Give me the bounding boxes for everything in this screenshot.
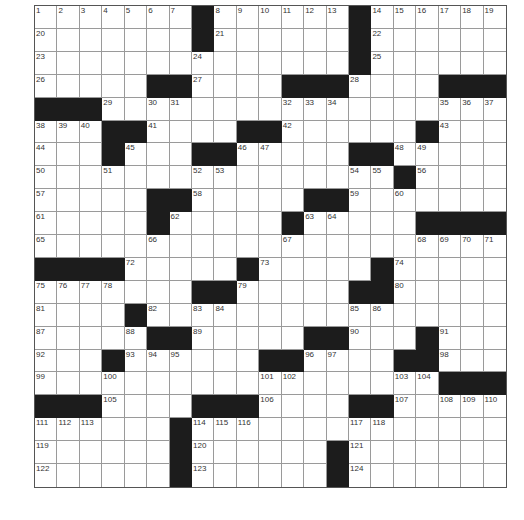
grid-cell[interactable] (80, 166, 102, 189)
grid-cell[interactable] (259, 464, 281, 487)
grid-cell[interactable] (57, 235, 79, 258)
grid-cell[interactable]: 85 (349, 304, 371, 327)
grid-cell[interactable] (237, 166, 259, 189)
grid-cell[interactable] (259, 235, 281, 258)
grid-cell[interactable]: 11 (282, 6, 304, 29)
grid-cell[interactable]: 21 (214, 29, 236, 52)
grid-cell[interactable] (327, 418, 349, 441)
grid-cell[interactable]: 104 (416, 372, 438, 395)
grid-cell[interactable] (282, 29, 304, 52)
grid-cell[interactable]: 52 (192, 166, 214, 189)
grid-cell[interactable]: 32 (282, 98, 304, 121)
grid-cell[interactable] (349, 372, 371, 395)
grid-cell[interactable] (57, 75, 79, 98)
grid-cell[interactable]: 59 (349, 189, 371, 212)
grid-cell[interactable] (304, 418, 326, 441)
grid-cell[interactable] (439, 281, 461, 304)
grid-cell[interactable]: 86 (371, 304, 393, 327)
grid-cell[interactable] (282, 189, 304, 212)
grid-cell[interactable] (416, 75, 438, 98)
grid-cell[interactable]: 61 (35, 212, 57, 235)
grid-cell[interactable]: 103 (394, 372, 416, 395)
grid-cell[interactable] (57, 327, 79, 350)
grid-cell[interactable] (394, 441, 416, 464)
grid-cell[interactable] (394, 212, 416, 235)
grid-cell[interactable] (80, 441, 102, 464)
grid-cell[interactable] (125, 52, 147, 75)
grid-cell[interactable] (282, 143, 304, 166)
grid-cell[interactable] (282, 258, 304, 281)
grid-cell[interactable] (461, 121, 483, 144)
grid-cell[interactable] (394, 52, 416, 75)
grid-cell[interactable] (484, 350, 506, 373)
grid-cell[interactable]: 115 (214, 418, 236, 441)
grid-cell[interactable] (214, 98, 236, 121)
grid-cell[interactable]: 13 (327, 6, 349, 29)
grid-cell[interactable] (147, 143, 169, 166)
grid-cell[interactable] (416, 464, 438, 487)
grid-cell[interactable]: 46 (237, 143, 259, 166)
grid-cell[interactable]: 23 (35, 52, 57, 75)
grid-cell[interactable]: 116 (237, 418, 259, 441)
grid-cell[interactable] (282, 395, 304, 418)
grid-cell[interactable] (349, 258, 371, 281)
grid-cell[interactable]: 18 (461, 6, 483, 29)
grid-cell[interactable]: 113 (80, 418, 102, 441)
grid-cell[interactable] (484, 189, 506, 212)
grid-cell[interactable] (80, 29, 102, 52)
grid-cell[interactable]: 120 (192, 441, 214, 464)
grid-cell[interactable] (80, 304, 102, 327)
grid-cell[interactable] (102, 212, 124, 235)
grid-cell[interactable] (80, 235, 102, 258)
grid-cell[interactable] (484, 29, 506, 52)
grid-cell[interactable] (484, 143, 506, 166)
grid-cell[interactable] (416, 304, 438, 327)
grid-cell[interactable] (125, 235, 147, 258)
grid-cell[interactable] (170, 281, 192, 304)
grid-cell[interactable]: 72 (125, 258, 147, 281)
grid-cell[interactable] (102, 327, 124, 350)
grid-cell[interactable] (214, 212, 236, 235)
grid-cell[interactable] (282, 52, 304, 75)
grid-cell[interactable] (304, 258, 326, 281)
grid-cell[interactable] (259, 29, 281, 52)
grid-cell[interactable] (259, 212, 281, 235)
grid-cell[interactable] (214, 372, 236, 395)
grid-cell[interactable] (394, 418, 416, 441)
grid-cell[interactable] (125, 29, 147, 52)
grid-cell[interactable]: 100 (102, 372, 124, 395)
grid-cell[interactable] (416, 418, 438, 441)
grid-cell[interactable]: 82 (147, 304, 169, 327)
grid-cell[interactable] (170, 258, 192, 281)
grid-cell[interactable]: 37 (484, 98, 506, 121)
grid-cell[interactable] (102, 418, 124, 441)
grid-cell[interactable] (461, 29, 483, 52)
grid-cell[interactable] (192, 121, 214, 144)
grid-cell[interactable] (80, 327, 102, 350)
grid-cell[interactable]: 26 (35, 75, 57, 98)
grid-cell[interactable] (484, 327, 506, 350)
grid-cell[interactable]: 48 (394, 143, 416, 166)
grid-cell[interactable] (371, 235, 393, 258)
grid-cell[interactable]: 44 (35, 143, 57, 166)
grid-cell[interactable]: 124 (349, 464, 371, 487)
grid-cell[interactable] (439, 464, 461, 487)
grid-cell[interactable] (327, 166, 349, 189)
grid-cell[interactable] (282, 418, 304, 441)
grid-cell[interactable]: 24 (192, 52, 214, 75)
grid-cell[interactable]: 89 (192, 327, 214, 350)
grid-cell[interactable] (304, 29, 326, 52)
grid-cell[interactable] (57, 143, 79, 166)
grid-cell[interactable] (461, 464, 483, 487)
grid-cell[interactable]: 42 (282, 121, 304, 144)
grid-cell[interactable] (147, 464, 169, 487)
grid-cell[interactable] (304, 372, 326, 395)
grid-cell[interactable] (147, 166, 169, 189)
grid-cell[interactable] (484, 52, 506, 75)
grid-cell[interactable]: 43 (439, 121, 461, 144)
grid-cell[interactable] (461, 418, 483, 441)
grid-cell[interactable] (237, 327, 259, 350)
grid-cell[interactable] (371, 464, 393, 487)
grid-cell[interactable] (170, 52, 192, 75)
grid-cell[interactable]: 22 (371, 29, 393, 52)
